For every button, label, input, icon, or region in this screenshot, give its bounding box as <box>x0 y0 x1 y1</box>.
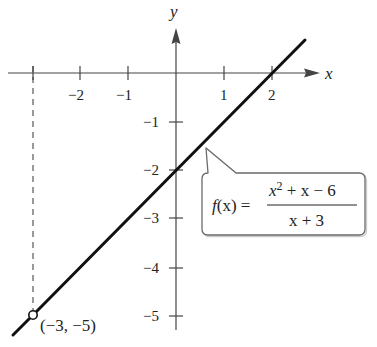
x-tick-label: 2 <box>268 87 276 103</box>
y-tick-label: −1 <box>143 114 159 130</box>
x-tick-label: −1 <box>116 87 132 103</box>
y-tick-label: −3 <box>143 210 159 226</box>
y-axis-arrow-icon <box>172 28 181 44</box>
x-tick-label: 1 <box>220 87 228 103</box>
y-tick-label: −2 <box>143 162 159 178</box>
equation-lhs: f(x) = <box>212 196 250 215</box>
x-axis-label: x <box>324 64 333 83</box>
hole-point-icon <box>29 311 37 319</box>
function-graph: x y −2 −1 1 2 −1 −2 −3 −4 −5 (−3, −5) f(… <box>0 0 377 347</box>
y-axis-label: y <box>168 2 178 21</box>
hole-point-label: (−3, −5) <box>40 316 96 335</box>
x-axis-arrow-icon <box>304 69 320 78</box>
function-line-left <box>13 319 30 336</box>
equation-callout: f(x) = x2 + x − 6 x + 3 <box>202 148 367 237</box>
y-tick-label: −4 <box>143 260 159 276</box>
equation-denominator: x + 3 <box>289 211 324 230</box>
y-tick-label: −5 <box>143 308 159 324</box>
x-tick-label: −2 <box>68 87 84 103</box>
